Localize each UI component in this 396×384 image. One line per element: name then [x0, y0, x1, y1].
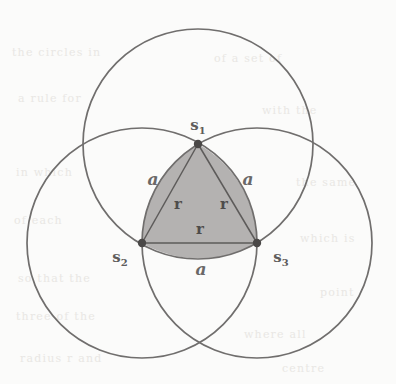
reuleaux-diagram: s1s2s3 aaa rrr — [0, 0, 396, 384]
radius-label-radius-left: r — [174, 195, 183, 213]
side-label-side-right: a — [242, 169, 253, 189]
reuleaux-triangle-shaded-region — [142, 144, 257, 258]
vertex-label-s1: s1 — [190, 116, 205, 136]
vertex-label-s3: s3 — [273, 248, 288, 268]
side-label-side-left: a — [147, 169, 158, 189]
radius-label-radius-right: r — [220, 195, 229, 213]
vertex-dot-s2 — [138, 239, 146, 247]
vertex-dot-s3 — [253, 239, 261, 247]
radius-label-radius-bottom: r — [196, 220, 205, 238]
vertex-dot-s1 — [194, 140, 202, 148]
vertex-label-s2: s2 — [112, 248, 127, 268]
side-label-side-bottom: a — [195, 259, 206, 279]
figure-container: the circles inof a set ofa rule forwith … — [0, 0, 396, 384]
